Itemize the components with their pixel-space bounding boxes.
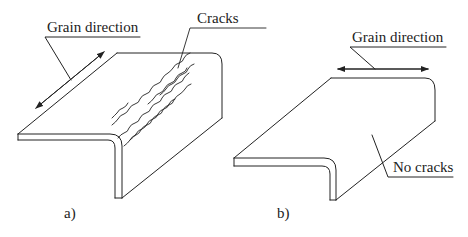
bent-plate-b [234, 78, 435, 200]
grain-direction-label-a: Grain direction [47, 20, 138, 35]
grain-direction-label-b: Grain direction [352, 30, 443, 45]
no-cracks-label: No cracks [393, 160, 453, 175]
grain-arrow-a [36, 37, 140, 108]
caption-b: b) [277, 206, 290, 221]
bent-plate-a [18, 53, 222, 198]
grain-arrow-b [338, 47, 446, 69]
cracks-label: Cracks [197, 11, 239, 26]
caption-a: a) [64, 206, 76, 221]
cracks-a [112, 28, 266, 146]
